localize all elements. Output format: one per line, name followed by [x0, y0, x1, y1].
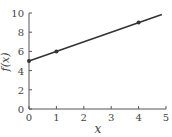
- line-chart: 0123450246810 x f(x): [0, 0, 172, 137]
- x-tick-label: 1: [53, 112, 59, 123]
- axes: 0123450246810: [11, 8, 169, 123]
- y-axis-label: f(x): [0, 53, 12, 73]
- x-tick-label: 4: [135, 112, 141, 123]
- x-tick-label: 3: [108, 112, 114, 123]
- y-tick-label: 0: [18, 104, 24, 115]
- x-tick-label: 2: [81, 112, 87, 123]
- series-line: [29, 14, 162, 61]
- x-tick-label: 5: [163, 112, 169, 123]
- y-tick-label: 8: [18, 27, 24, 38]
- x-tick-label: 0: [26, 112, 32, 123]
- y-tick-label: 2: [18, 85, 24, 96]
- x-axis-label: x: [95, 122, 102, 136]
- y-tick-label: 4: [18, 66, 24, 77]
- y-tick-label: 6: [18, 46, 24, 57]
- plot-area: [27, 14, 162, 63]
- data-point: [137, 21, 141, 25]
- y-tick-label: 10: [11, 8, 24, 19]
- data-point: [54, 49, 58, 53]
- data-point: [27, 59, 31, 63]
